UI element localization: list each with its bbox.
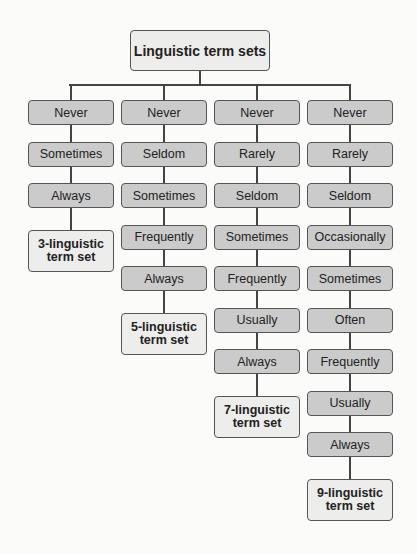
connector	[70, 84, 72, 100]
connector	[256, 208, 258, 225]
connector	[256, 333, 258, 350]
term-node-sometimes: Sometimes	[307, 266, 393, 291]
connector	[349, 333, 351, 350]
connector	[163, 84, 165, 100]
connector	[70, 167, 72, 184]
connector	[256, 125, 258, 142]
term-node-rarely: Rarely	[214, 142, 300, 167]
connector	[163, 125, 165, 142]
term-node-usually: Usually	[214, 308, 300, 333]
connector	[349, 457, 351, 479]
term-node-often: Often	[307, 308, 393, 333]
term-set-result-node: 5-linguistic term set	[121, 313, 207, 355]
term-set-result-node: 3-linguistic term set	[28, 230, 114, 272]
connector	[349, 250, 351, 267]
term-node-seldom: Seldom	[214, 183, 300, 208]
term-node-frequently: Frequently	[121, 225, 207, 250]
term-node-always: Always	[307, 432, 393, 457]
connector	[70, 125, 72, 142]
connector	[349, 291, 351, 308]
connector	[256, 250, 258, 267]
connector	[256, 84, 258, 100]
connector	[349, 125, 351, 142]
connector	[349, 208, 351, 225]
connector	[69, 84, 349, 86]
term-node-never: Never	[28, 100, 114, 125]
term-node-never: Never	[121, 100, 207, 125]
connector	[163, 208, 165, 225]
term-node-sometimes: Sometimes	[214, 225, 300, 250]
connector	[349, 84, 351, 100]
connector	[349, 416, 351, 433]
term-node-always: Always	[28, 183, 114, 208]
term-node-never: Never	[307, 100, 393, 125]
connector	[163, 291, 165, 313]
term-node-rarely: Rarely	[307, 142, 393, 167]
connector	[256, 167, 258, 184]
connector	[349, 167, 351, 184]
term-node-occasionally: Occasionally	[307, 225, 393, 250]
connector	[163, 167, 165, 184]
connector	[256, 374, 258, 396]
connector	[349, 374, 351, 391]
term-node-sometimes: Sometimes	[121, 183, 207, 208]
root-node: Linguistic term sets	[130, 30, 270, 71]
term-set-result-node: 9-linguistic term set	[307, 479, 393, 521]
term-set-result-node: 7-linguistic term set	[214, 396, 300, 438]
term-node-seldom: Seldom	[307, 183, 393, 208]
connector	[256, 291, 258, 308]
connector	[70, 208, 72, 230]
connector	[163, 250, 165, 267]
term-node-always: Always	[214, 349, 300, 374]
term-node-seldom: Seldom	[121, 142, 207, 167]
term-node-usually: Usually	[307, 391, 393, 416]
term-node-always: Always	[121, 266, 207, 291]
connector	[199, 71, 201, 84]
term-node-sometimes: Sometimes	[28, 142, 114, 167]
term-node-never: Never	[214, 100, 300, 125]
term-node-frequently: Frequently	[214, 266, 300, 291]
term-node-frequently: Frequently	[307, 349, 393, 374]
